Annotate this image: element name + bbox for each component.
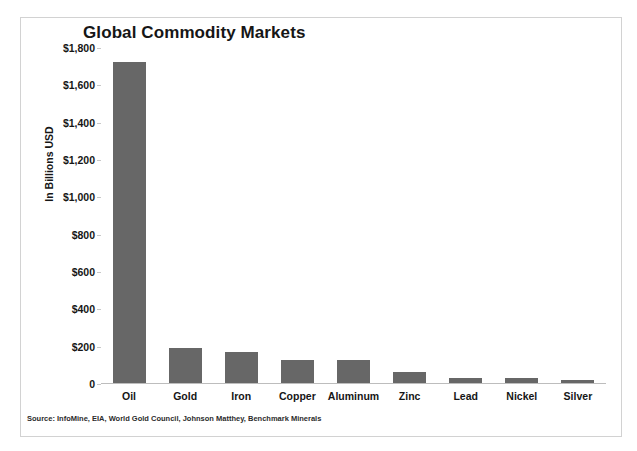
bar xyxy=(281,360,314,383)
bar-slot: Iron xyxy=(213,47,269,383)
y-axis-tick-label: 0 xyxy=(33,378,95,390)
y-axis-tick-label: $1,000 xyxy=(33,191,95,203)
x-axis-tick-label: Silver xyxy=(564,390,593,402)
chart-figure: Global Commodity Markets In Billions USD… xyxy=(0,0,637,451)
y-axis-tick-label: $400 xyxy=(33,303,95,315)
bar xyxy=(505,378,538,383)
y-axis-tick-mark xyxy=(97,384,101,385)
x-axis-tick-label: Lead xyxy=(453,390,478,402)
y-axis-tick-label: $1,200 xyxy=(33,154,95,166)
bar-slot: Gold xyxy=(157,47,213,383)
x-axis-tick-label: Copper xyxy=(279,390,316,402)
plot-area: $1,800$1,600$1,400$1,200$1,000$800$600$4… xyxy=(101,48,606,384)
bar-slot: Copper xyxy=(269,47,325,383)
chart-title: Global Commodity Markets xyxy=(83,23,306,43)
bar-slot: Aluminum xyxy=(325,47,381,383)
bar xyxy=(113,62,146,383)
y-axis-tick-label: $800 xyxy=(33,229,95,241)
bar-series: OilGoldIronCopperAluminumZincLeadNickelS… xyxy=(101,47,606,383)
bar-slot: Oil xyxy=(101,47,157,383)
bar-slot: Lead xyxy=(438,47,494,383)
y-axis-tick-label: $1,800 xyxy=(33,42,95,54)
bar xyxy=(449,378,482,383)
bar-slot: Zinc xyxy=(382,47,438,383)
x-axis-tick-label: Aluminum xyxy=(328,390,379,402)
bar xyxy=(225,352,258,383)
y-axis-tick-label: $1,600 xyxy=(33,79,95,91)
x-axis-tick-label: Nickel xyxy=(506,390,537,402)
y-axis-tick-label: $200 xyxy=(33,341,95,353)
x-axis-tick-label: Zinc xyxy=(399,390,421,402)
chart-frame: Global Commodity Markets In Billions USD… xyxy=(20,17,622,437)
x-axis-baseline xyxy=(101,383,606,384)
bar-slot: Silver xyxy=(550,47,606,383)
bar-slot: Nickel xyxy=(494,47,550,383)
bar xyxy=(169,348,202,383)
y-axis-tick-label: $1,400 xyxy=(33,117,95,129)
bar xyxy=(561,380,594,383)
source-note: Source: InfoMine, EIA, World Gold Counci… xyxy=(27,414,321,423)
bar xyxy=(393,372,426,383)
x-axis-tick-label: Iron xyxy=(231,390,251,402)
y-axis-tick-label: $600 xyxy=(33,266,95,278)
x-axis-tick-label: Oil xyxy=(122,390,136,402)
bar xyxy=(337,360,370,383)
x-axis-tick-label: Gold xyxy=(173,390,197,402)
